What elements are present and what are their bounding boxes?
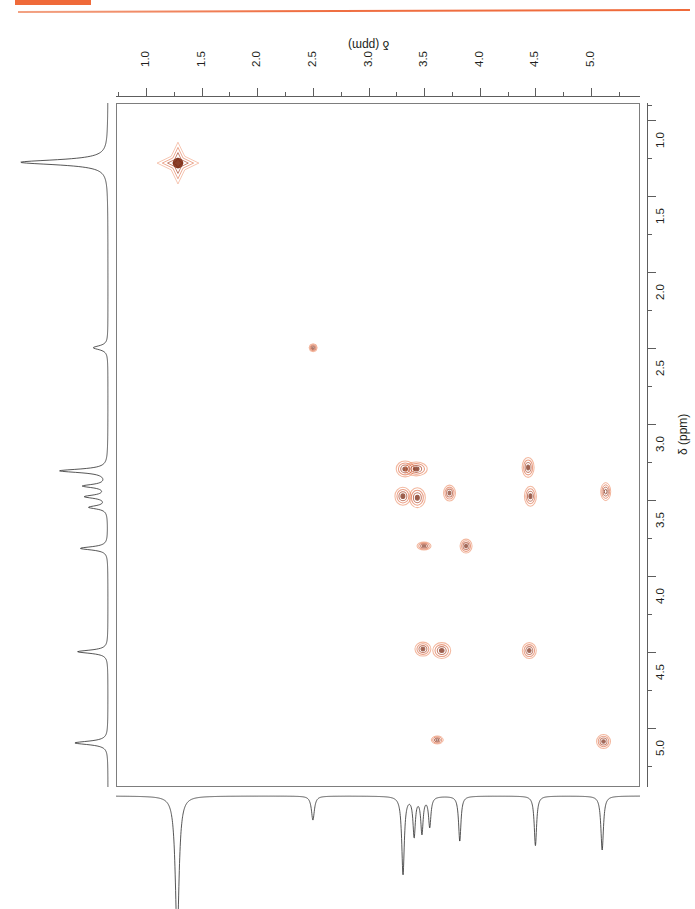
right-axis-tick-label: 3.0 xyxy=(654,436,666,452)
right-axis-tick xyxy=(648,652,656,653)
contour-peak xyxy=(524,486,536,506)
right-axis-minor-tick xyxy=(648,310,652,311)
left-projection-path xyxy=(21,103,108,787)
contour-peaks-layer xyxy=(117,104,639,785)
right-axis-tick-label: 1.5 xyxy=(654,208,666,224)
plot-frame xyxy=(116,103,640,787)
top-axis-tick-label: 3.0 xyxy=(362,51,374,67)
top-axis-minor-tick xyxy=(118,92,119,96)
top-axis-tick xyxy=(257,88,258,96)
right-axis-minor-tick xyxy=(648,158,652,159)
top-axis-minor-tick xyxy=(452,92,453,96)
top-axis-tick xyxy=(313,88,314,96)
right-axis-minor-tick xyxy=(648,538,652,539)
right-axis-minor-tick xyxy=(648,105,652,106)
right-axis-tick-label: 4.5 xyxy=(654,664,666,680)
contour-peak xyxy=(444,485,456,501)
top-axis-tick-label: 3.5 xyxy=(417,51,429,67)
top-axis-tick xyxy=(591,88,592,96)
right-axis-tick xyxy=(648,272,656,273)
top-axis-minor-tick xyxy=(563,92,564,96)
contour-peak xyxy=(522,643,536,659)
top-axis-minor-tick xyxy=(508,92,509,96)
top-axis-tick-label: 1.5 xyxy=(195,51,207,67)
right-axis-tick xyxy=(648,196,656,197)
right-axis-tick xyxy=(648,120,656,121)
top-axis-tick-label: 2.0 xyxy=(250,51,262,67)
contour-peak xyxy=(409,488,425,508)
top-axis-tick-label: 1.0 xyxy=(139,51,151,67)
contour-peak xyxy=(597,734,611,748)
top-axis-tick xyxy=(480,88,481,96)
right-axis-tick-label: 4.0 xyxy=(654,588,666,604)
contour-peak xyxy=(431,736,443,744)
top-axis-tick-label: 4.0 xyxy=(473,51,485,67)
contour-peak xyxy=(415,642,431,656)
top-axis-tick xyxy=(146,88,147,96)
top-axis-minor-tick xyxy=(341,92,342,96)
top-axis-minor-tick xyxy=(174,92,175,96)
right-axis-tick xyxy=(648,728,656,729)
right-axis-tick-label: 3.5 xyxy=(654,512,666,528)
contour-peak xyxy=(433,643,451,659)
top-axis-minor-tick xyxy=(285,92,286,96)
contour-peak xyxy=(405,462,427,476)
right-axis-tick xyxy=(648,576,656,577)
contour-peak xyxy=(522,457,534,477)
right-axis-tick-label: 5.0 xyxy=(654,740,666,756)
contour-peak xyxy=(309,344,317,352)
top-axis-tick-label: 5.0 xyxy=(584,51,596,67)
right-axis-tick-label: 2.5 xyxy=(654,360,666,376)
top-axis-minor-tick xyxy=(396,92,397,96)
top-axis-tick xyxy=(202,88,203,96)
right-axis-ticks: 1.01.52.02.53.03.54.04.55.0 xyxy=(648,0,662,909)
bottom-projection-trace xyxy=(116,790,640,909)
right-axis-minor-tick xyxy=(648,462,652,463)
contour-peak xyxy=(460,539,472,553)
top-axis-title: δ (ppm) xyxy=(348,38,389,52)
right-axis-tick xyxy=(648,424,656,425)
right-axis-tick-label: 2.0 xyxy=(654,284,666,300)
top-axis-tick xyxy=(535,88,536,96)
right-axis-minor-tick xyxy=(648,234,652,235)
contour-peak xyxy=(157,142,199,184)
top-axis-tick-label: 2.5 xyxy=(306,51,318,67)
right-axis-tick xyxy=(648,348,656,349)
bottom-projection-path xyxy=(116,796,640,909)
right-axis-minor-tick xyxy=(648,614,652,615)
figure-page: OSY 1.01.52.02.53.03.54.04.55.0 δ (ppm) … xyxy=(0,0,695,909)
right-axis-minor-tick xyxy=(648,690,652,691)
contour-peak xyxy=(417,542,431,550)
left-projection-trace xyxy=(8,103,114,787)
right-axis-title: δ (ppm) xyxy=(676,414,690,455)
top-axis-line xyxy=(116,96,640,97)
contour-peak xyxy=(601,483,611,501)
right-axis-tick-label: 1.0 xyxy=(654,132,666,148)
right-axis-minor-tick xyxy=(648,766,652,767)
contour-peak xyxy=(395,487,411,505)
right-axis-minor-tick xyxy=(648,386,652,387)
top-axis-minor-tick xyxy=(229,92,230,96)
right-axis-tick xyxy=(648,500,656,501)
top-axis-tick xyxy=(369,88,370,96)
top-axis-minor-tick xyxy=(619,92,620,96)
top-axis-tick xyxy=(424,88,425,96)
top-axis-tick-label: 4.5 xyxy=(528,51,540,67)
